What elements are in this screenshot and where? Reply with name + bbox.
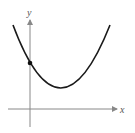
y-intercept-point (28, 61, 33, 66)
graph-canvas: y x (0, 0, 135, 133)
y-axis-label: y (26, 7, 32, 18)
parabola-curve (13, 25, 110, 88)
parabola-graph: y x (0, 0, 135, 133)
x-axis-label: x (119, 104, 125, 115)
